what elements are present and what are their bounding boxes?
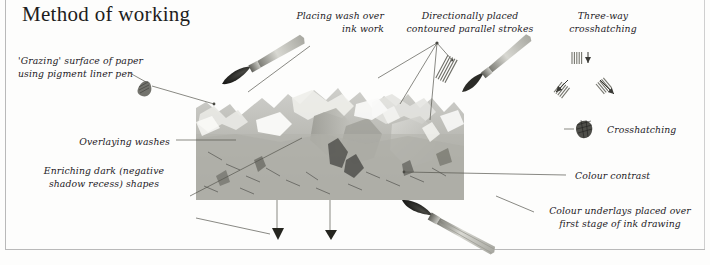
annotation-grazing-surface: 'Grazing' surface of paper using pigment… <box>18 55 143 80</box>
marker-arrowheads <box>272 228 337 240</box>
leader-colour-underlays <box>496 196 534 212</box>
graze-texture-blob <box>138 81 152 96</box>
annotation-three-way-crosshatching: Three-way crosshatching <box>560 10 646 35</box>
brush-upper-right <box>458 33 533 95</box>
annotation-colour-underlays: Colour underlays placed over first stage… <box>536 205 704 230</box>
leader-directional-4 <box>437 43 452 60</box>
figure-page: Method of working <box>0 0 710 265</box>
page-frame-bottom <box>5 249 705 250</box>
leader-to-marker-left <box>196 218 270 234</box>
annotation-enriching-dark: Enriching dark (negative shadow recess) … <box>20 165 188 190</box>
hatch-swatch-vertical <box>572 52 588 64</box>
page-frame-left <box>5 0 6 249</box>
hatch-direction-arrow-left <box>556 80 568 92</box>
annotation-colour-contrast: Colour contrast <box>575 170 650 183</box>
down-arrow-right-icon <box>325 230 337 240</box>
hatch-swatch-left <box>554 82 570 98</box>
page-title: Method of working <box>22 2 190 27</box>
down-arrow-left-icon <box>272 228 284 240</box>
annotation-directionally-placed: Directionally placed contoured parallel … <box>402 10 538 35</box>
annotation-crosshatching: Crosshatching <box>607 124 676 137</box>
hatch-swatch-right <box>596 78 612 94</box>
page-frame-right <box>704 0 705 249</box>
crosshatch-blob <box>576 120 592 138</box>
brush-lower-right <box>400 195 497 257</box>
annotation-placing-wash: Placing wash over ink work <box>296 10 384 35</box>
hatch-direction-arrow-right <box>600 80 614 94</box>
annotation-overlaying-washes: Overlaying washes <box>36 136 170 149</box>
artwork-ink-wash-study <box>196 68 464 200</box>
